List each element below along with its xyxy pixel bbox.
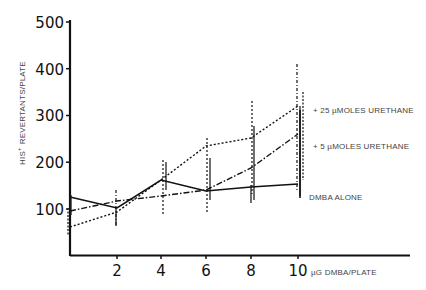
error-bars: [68, 64, 303, 235]
x-tick-4: 4: [156, 262, 166, 280]
y-tick-300: 300: [35, 107, 64, 125]
x-axis-label: µG DMBA/PLATE: [311, 268, 377, 277]
legend-25-umoles: + 25 µMOLES URETHANE: [313, 106, 414, 115]
svg-text:HIS+REVERTANTS/PLATE: HIS+REVERTANTS/PLATE: [16, 61, 27, 165]
legend-5-umoles: + 5 µMOLES URETHANE: [313, 142, 409, 151]
y-tick-400: 400: [35, 61, 64, 79]
series-25-umoles-urethane: [70, 106, 298, 227]
x-tick-10: 10: [288, 262, 307, 280]
y-tick-100: 100: [35, 201, 64, 219]
chart-plot: 500 400 300 200 100 2 4 6 8 10 µG DMBA/P…: [0, 0, 426, 290]
series-5-umoles-urethane: [70, 134, 298, 211]
y-axis-label: HIS+REVERTANTS/PLATE: [16, 61, 27, 165]
y-tick-200: 200: [35, 154, 64, 172]
legend-dmba-alone: DMBA ALONE: [309, 193, 363, 202]
x-tick-6: 6: [201, 262, 211, 280]
y-tick-500: 500: [35, 14, 64, 32]
x-tick-2: 2: [112, 262, 122, 280]
x-tick-8: 8: [246, 262, 256, 280]
